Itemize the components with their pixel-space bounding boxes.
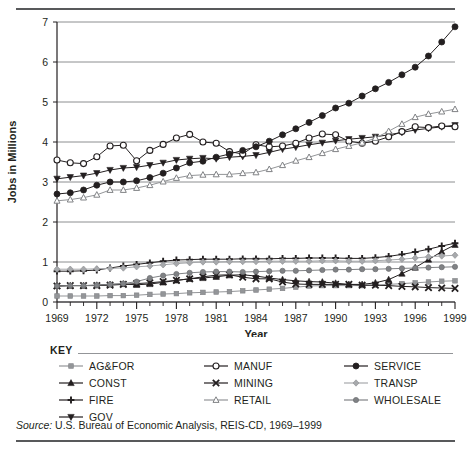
legend-item-wholesale[interactable]: WHOLESALE — [343, 392, 470, 408]
data-point-marker — [147, 175, 153, 181]
data-point-marker — [120, 179, 126, 185]
marker-circle-open — [266, 144, 272, 150]
data-point-marker — [280, 132, 286, 138]
marker-circle-gray — [121, 281, 126, 286]
chart-plot-area: 0123456719691972197519781981198419871990… — [0, 12, 470, 337]
marker-diamond-gray — [372, 258, 378, 264]
legend-item-ag-for[interactable]: AG&FOR — [58, 358, 203, 374]
marker-diamond-gray — [425, 254, 431, 260]
data-point-marker — [346, 100, 352, 106]
data-point-marker — [69, 364, 74, 369]
legend-label: CONST — [89, 377, 127, 389]
marker-circle-gray — [54, 283, 59, 288]
marker-circle-open — [280, 143, 286, 149]
data-point-marker — [68, 283, 73, 288]
marker-circle-gray — [134, 279, 139, 284]
top-divider-rule — [16, 8, 455, 10]
marker-circle-filled — [226, 151, 232, 157]
marker-circle-gray — [174, 271, 179, 276]
marker-diamond-gray — [306, 258, 312, 264]
data-point-marker — [81, 294, 86, 299]
legend-item-retail[interactable]: RETAIL — [203, 392, 343, 408]
data-point-marker — [385, 276, 391, 282]
marker-circle-open — [147, 147, 153, 153]
marker-diamond-gray — [173, 260, 179, 266]
marker-circle-gray — [81, 283, 86, 288]
figure-page: 0123456719691972197519781981198419871990… — [0, 0, 470, 449]
bottom-divider-rule — [16, 440, 455, 442]
data-point-marker — [160, 170, 166, 176]
legend-item-manuf[interactable]: MANUF — [203, 358, 343, 374]
legend-item-transp[interactable]: TRANSP — [343, 375, 470, 391]
marker-diamond-gray — [94, 266, 100, 272]
marker-circle-filled — [353, 363, 359, 369]
data-point-marker — [147, 263, 153, 269]
marker-circle-filled — [280, 132, 286, 138]
legend-marker-plus — [58, 393, 84, 407]
data-point-marker — [107, 282, 112, 287]
x-axis-tick-label: 1984 — [244, 312, 268, 324]
marker-triangle-open — [399, 121, 405, 127]
marker-circle-filled — [173, 165, 179, 171]
marker-circle-gray — [68, 283, 73, 288]
source-note: Source: U.S. Bureau of Economic Analysis… — [16, 419, 322, 431]
marker-circle-gray — [360, 267, 365, 272]
marker-square-gray — [227, 289, 232, 294]
data-point-marker — [373, 267, 378, 272]
marker-square-gray — [214, 290, 219, 295]
marker-circle-filled — [240, 147, 246, 153]
marker-triangle-up — [385, 276, 391, 282]
data-point-marker — [438, 243, 445, 250]
marker-circle-filled — [94, 182, 100, 188]
data-point-marker — [173, 135, 179, 141]
x-axis-title: Year — [244, 328, 268, 337]
marker-circle-gray — [187, 270, 192, 275]
marker-circle-filled — [333, 105, 339, 111]
legend-column-2: MANUFMININGRETAIL — [203, 358, 343, 409]
marker-diamond-gray — [187, 260, 193, 266]
marker-circle-filled — [120, 179, 126, 185]
data-point-marker — [107, 143, 113, 149]
data-point-marker — [453, 279, 458, 284]
data-point-marker — [147, 275, 152, 280]
legend-item-service[interactable]: SERVICE — [343, 358, 470, 374]
data-point-marker — [439, 39, 445, 45]
legend-swatch — [203, 359, 229, 373]
legend-marker-circle-filled — [343, 359, 369, 373]
marker-circle-filled — [147, 175, 153, 181]
data-point-marker — [54, 283, 59, 288]
data-point-marker — [161, 273, 166, 278]
data-point-marker — [54, 176, 60, 182]
x-axis-tick-label: 1978 — [165, 312, 189, 324]
marker-circle-filled — [372, 86, 378, 92]
legend-item-mining[interactable]: MINING — [203, 375, 343, 391]
data-point-marker — [200, 158, 206, 164]
marker-square-gray — [95, 294, 100, 299]
marker-circle-open — [293, 140, 299, 146]
marker-circle-open — [160, 141, 166, 147]
data-point-marker — [187, 270, 192, 275]
data-point-marker — [81, 187, 87, 193]
marker-circle-gray — [94, 283, 99, 288]
line-chart-svg: 0123456719691972197519781981198419871990… — [0, 12, 470, 337]
data-point-marker — [353, 397, 358, 402]
data-point-marker — [187, 131, 193, 137]
data-point-marker — [227, 269, 232, 274]
legend-item-const[interactable]: CONST — [58, 375, 203, 391]
data-point-marker — [359, 93, 365, 99]
legend-item-fire[interactable]: FIRE — [58, 392, 203, 408]
marker-circle-gray — [320, 267, 325, 272]
data-point-marker — [226, 151, 232, 157]
marker-plus — [425, 246, 432, 253]
marker-circle-filled — [200, 158, 206, 164]
marker-circle-gray — [413, 265, 418, 270]
data-point-marker — [254, 288, 259, 293]
y-axis-tick-label: 1 — [42, 256, 48, 268]
data-point-marker — [267, 287, 272, 292]
marker-circle-gray — [353, 397, 358, 402]
marker-square-gray — [439, 279, 444, 284]
data-point-marker — [306, 268, 311, 273]
marker-triangle-open — [452, 106, 458, 112]
data-point-marker — [452, 252, 458, 258]
y-axis-tick-label: 4 — [42, 136, 48, 148]
